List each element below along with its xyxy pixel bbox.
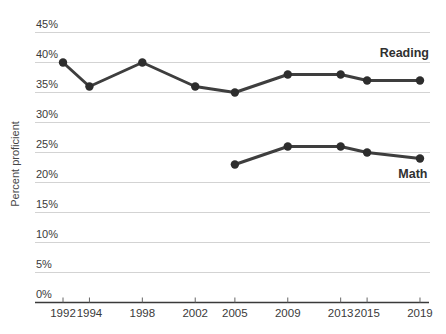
- data-point-reading-1994: [85, 82, 93, 90]
- proficiency-trend-figure: 45%40%35%30%25%20%15%10%5%0%199219941998…: [0, 0, 446, 334]
- data-point-math-2009: [284, 142, 292, 150]
- x-tick-label: 2019: [407, 307, 433, 319]
- data-point-reading-2019: [416, 76, 424, 84]
- series-line-math: [235, 147, 420, 165]
- x-tick-label: 1992: [50, 307, 76, 319]
- series-label-math: Math: [398, 167, 427, 181]
- x-tick-label: 2005: [222, 307, 248, 319]
- line-chart-svg: 45%40%35%30%25%20%15%10%5%0%199219941998…: [0, 0, 446, 334]
- data-point-math-2019: [416, 154, 424, 162]
- data-point-math-2005: [231, 160, 239, 168]
- y-tick-label: 40%: [36, 48, 58, 60]
- data-point-reading-2015: [363, 76, 371, 84]
- y-tick-label: 20%: [36, 168, 58, 180]
- data-point-reading-2009: [284, 70, 292, 78]
- x-tick-label: 2009: [275, 307, 301, 319]
- data-point-math-2013: [336, 142, 344, 150]
- y-tick-label: 0%: [36, 288, 52, 300]
- x-tick-label: 2015: [354, 307, 380, 319]
- data-point-reading-2002: [191, 82, 199, 90]
- y-axis-title: Percent proficient: [9, 121, 21, 207]
- y-tick-label: 45%: [36, 18, 58, 30]
- x-tick-label: 1998: [130, 307, 156, 319]
- data-point-math-2015: [363, 148, 371, 156]
- y-tick-label: 30%: [36, 108, 58, 120]
- y-tick-label: 10%: [36, 228, 58, 240]
- y-tick-label: 5%: [36, 258, 52, 270]
- y-tick-label: 35%: [36, 78, 58, 90]
- x-tick-label: 2013: [328, 307, 354, 319]
- x-tick-label: 2002: [182, 307, 208, 319]
- y-tick-label: 15%: [36, 198, 58, 210]
- data-point-reading-2013: [336, 70, 344, 78]
- series-label-reading: Reading: [380, 46, 429, 60]
- data-point-reading-2005: [231, 88, 239, 96]
- data-point-reading-1998: [138, 58, 146, 66]
- y-tick-label: 25%: [36, 138, 58, 150]
- x-tick-label: 1994: [77, 307, 103, 319]
- data-point-reading-1992: [59, 58, 67, 66]
